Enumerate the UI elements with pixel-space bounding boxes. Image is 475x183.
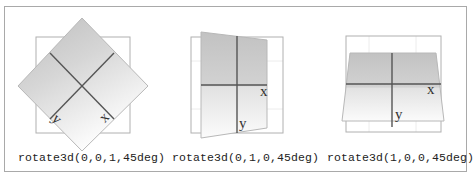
- x-axis-label: x: [260, 83, 268, 99]
- x-axis-label: x: [427, 81, 435, 97]
- figure-y-rotation: x y: [191, 32, 283, 138]
- figure-x-rotation: x y: [342, 36, 444, 132]
- figure-z-rotation: x y: [18, 18, 148, 151]
- caption-rotate-z: rotate3d(0,0,1,45deg): [18, 151, 165, 164]
- y-axis-label: y: [239, 115, 247, 131]
- caption-rotate-x: rotate3d(1,0,0,45deg): [327, 151, 474, 164]
- y-axis-label: y: [395, 106, 403, 122]
- caption-rotate-y: rotate3d(0,1,0,45deg): [172, 151, 319, 164]
